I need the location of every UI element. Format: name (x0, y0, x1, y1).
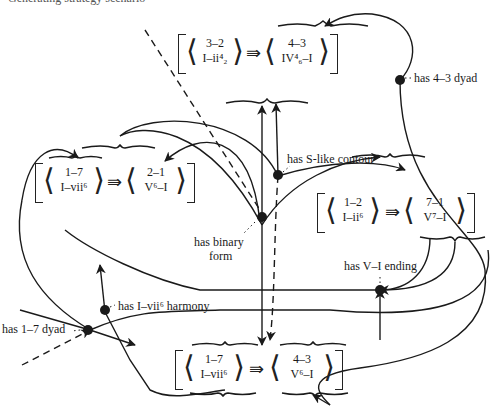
feature-node-binary-form (257, 212, 267, 222)
left-angle: ⟨ (264, 32, 276, 70)
label-has-i-vii6-harmony: has I–vii⁶ harmony (118, 299, 210, 314)
brace-left-right-over (82, 145, 155, 148)
pair-left: ⟨ 1–2 I–ii⁶ ⟩ (325, 195, 381, 225)
right-bracket (187, 163, 195, 203)
right-angle: ⟩ (232, 32, 244, 70)
left-angle: ⟨ (186, 32, 198, 70)
node-top: ⟨ 3–2 I–ii⁴₂ ⟩ ⇛ ⟨ 4–3 IV⁴₆–I ⟩ (178, 34, 338, 72)
label-has-binary-form-line1: has binary (194, 235, 244, 250)
pair-left: ⟨ 3–2 I–ii⁴₂ ⟩ (186, 36, 244, 66)
left-bracket (175, 350, 183, 390)
right-angle: ⟩ (318, 32, 330, 70)
pair-left: ⟨ 1–7 I–vii⁶ ⟩ (183, 352, 245, 382)
left-angle: ⟨ (183, 348, 195, 386)
right-angle: ⟩ (175, 161, 187, 199)
pair-right: ⟨ 4–3 V⁶–I ⟩ (269, 352, 335, 382)
right-bracket (330, 34, 338, 74)
left-bracket (178, 34, 186, 74)
implies-symbol: ⇛ (107, 171, 122, 192)
label-has-s-like-contour: has S-like contour (287, 152, 374, 167)
right-angle: ⟩ (323, 348, 335, 386)
label-has-1-7-dyad: has 1–7 dyad (2, 322, 65, 337)
left-angle: ⟨ (403, 191, 415, 229)
node-bottom: ⟨ 1–7 I–vii⁶ ⟩ ⇛ ⟨ 4–3 V⁶–I ⟩ (175, 350, 343, 388)
node-right: ⟨ 1–2 I–ii⁶ ⟩ ⇛ ⟨ 7–1 V⁷–I ⟩ (317, 193, 475, 231)
feature-node-four-three (395, 75, 405, 85)
right-angle: ⟩ (233, 348, 245, 386)
brace-top-right-over (278, 21, 368, 26)
left-angle: ⟨ (43, 161, 55, 199)
implies-symbol: ⇛ (246, 42, 261, 63)
pair-left: ⟨ 1–7 I–vii⁶ ⟩ (43, 165, 105, 195)
right-angle: ⟩ (369, 191, 381, 229)
left-angle: ⟨ (269, 348, 281, 386)
label-has-v-i-ending: has V–I ending (344, 259, 417, 274)
brace-top-under (226, 99, 308, 103)
right-bracket (467, 193, 475, 233)
implies-symbol: ⇛ (385, 201, 400, 222)
feature-node-v-i (375, 285, 385, 295)
pair-right: ⟨ 4–3 IV⁴₆–I ⟩ (264, 36, 330, 66)
label-has-4-3-dyad: has 4–3 dyad (414, 71, 477, 86)
feature-node-one-seven (83, 325, 93, 335)
right-bracket (335, 350, 343, 390)
left-bracket (35, 163, 43, 203)
right-angle: ⟩ (455, 191, 467, 229)
pair-right: ⟨ 7–1 V⁷–I ⟩ (403, 195, 467, 225)
truncated-caption: Generating strategy scenario (8, 0, 145, 6)
pair-right: ⟨ 2–1 V⁶–I ⟩ (125, 165, 187, 195)
brace-bottom-left-over (192, 342, 258, 345)
left-bracket (317, 193, 325, 233)
left-angle: ⟨ (325, 191, 337, 229)
feature-node-s-contour (273, 170, 283, 180)
left-angle: ⟨ (125, 161, 137, 199)
brace-bottom-right-over (280, 342, 346, 345)
implies-symbol: ⇛ (249, 358, 264, 379)
node-left: ⟨ 1–7 I–vii⁶ ⟩ ⇛ ⟨ 2–1 V⁶–I ⟩ (35, 163, 195, 201)
feature-node-i-vii6 (100, 305, 110, 315)
label-has-binary-form-line2: form (209, 249, 232, 264)
right-angle: ⟩ (93, 161, 105, 199)
